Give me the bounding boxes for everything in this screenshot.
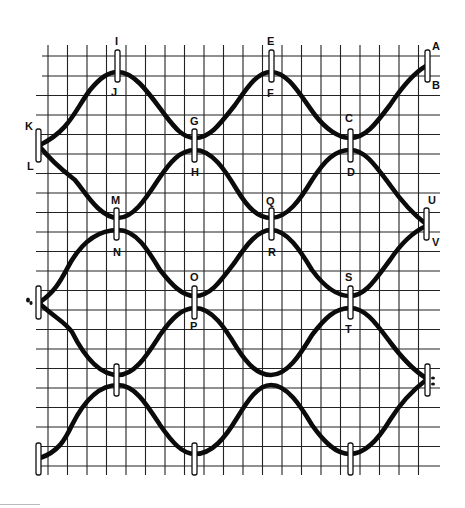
clip-ef [269, 50, 274, 82]
label-d: D [347, 166, 355, 178]
right-lower-mark [431, 376, 435, 385]
label-g: G [190, 115, 199, 127]
label-t: T [345, 323, 352, 335]
label-n: N [113, 246, 121, 258]
clip-lower-1 [114, 364, 119, 396]
wire-4 [40, 304, 426, 378]
clip-cd [348, 129, 353, 162]
label-q: Q [266, 195, 275, 207]
clip-bottom-right [348, 443, 353, 475]
label-l: L [27, 160, 34, 172]
label-i: I [115, 35, 118, 47]
wire-1 [40, 66, 426, 145]
clip-kl [36, 129, 41, 162]
clip-qr [269, 208, 274, 240]
clip-uv [424, 208, 429, 240]
clip-gh [192, 129, 197, 162]
page-edge-line [0, 504, 40, 505]
label-j: J [111, 86, 117, 98]
label-o: O [190, 271, 199, 283]
clip-left-mid [36, 286, 41, 319]
clip-mn [114, 208, 119, 240]
clip-right-lower [425, 364, 430, 396]
label-f: F [267, 87, 274, 99]
clip-ab [425, 50, 430, 82]
label-s: S [345, 271, 352, 283]
clip-bottom-left [36, 443, 41, 475]
label-e: E [267, 35, 274, 47]
braid-diagram: I J E F A B K L G H C D M N Q R U V O P … [0, 0, 465, 508]
left-mid-mark [26, 297, 33, 305]
clip-st [348, 286, 353, 319]
label-m: M [111, 194, 120, 206]
label-a: A [432, 40, 440, 52]
label-p: P [190, 320, 197, 332]
label-v: V [432, 236, 440, 248]
clip-ij [115, 50, 120, 82]
label-r: R [268, 246, 276, 258]
label-b: B [432, 79, 440, 91]
label-k: K [25, 120, 33, 132]
clip-bottom-mid [192, 443, 197, 475]
label-h: H [191, 166, 199, 178]
clip-op [192, 286, 197, 319]
label-c: C [345, 112, 353, 124]
label-u: U [428, 194, 436, 206]
wires [40, 66, 426, 458]
